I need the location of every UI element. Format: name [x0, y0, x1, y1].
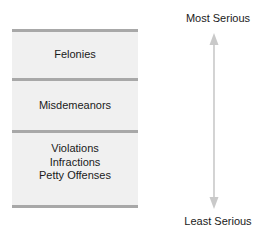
tier-violations-label-line-2: Infractions: [12, 156, 138, 170]
axis-label-most-serious: Most Serious: [168, 12, 268, 25]
diagram-canvas: Felonies Misdemeanors Violations Infract…: [0, 0, 276, 239]
double-headed-arrow-icon: [168, 32, 268, 210]
tier-felonies-label: Felonies: [12, 48, 138, 62]
tier-misdemeanors-label: Misdemeanors: [12, 99, 138, 113]
tier-felonies: Felonies: [12, 32, 138, 78]
tier-violations-label-line-1: Violations: [12, 142, 138, 156]
tier-violations-label-line-3: Petty Offenses: [12, 169, 138, 183]
tier-divider-bottom: [12, 205, 138, 208]
tier-misdemeanors: Misdemeanors: [12, 81, 138, 130]
severity-axis: Most Serious Least Serious: [168, 8, 268, 233]
crime-tier-stack: Felonies Misdemeanors Violations Infract…: [12, 29, 138, 208]
tier-violations: Violations Infractions Petty Offenses: [12, 133, 138, 205]
axis-label-least-serious: Least Serious: [168, 215, 268, 228]
